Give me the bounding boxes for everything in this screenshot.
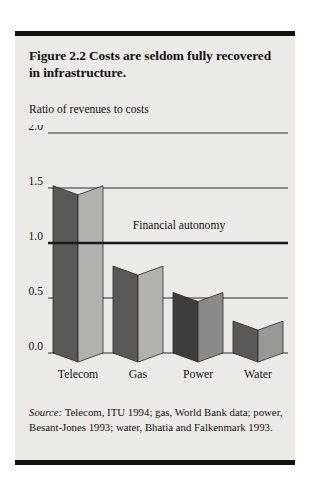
y-tick-label: 2.0 xyxy=(29,125,44,133)
bar-face-left xyxy=(113,266,138,362)
bar-face-left xyxy=(53,186,78,362)
x-axis-label: Water xyxy=(244,367,272,382)
bar-water xyxy=(233,321,283,362)
x-axis-label: Telecom xyxy=(58,367,98,382)
bar-face-right xyxy=(258,321,283,362)
y-tick-label: 1.0 xyxy=(29,230,44,243)
y-tick-label: 0.5 xyxy=(29,285,44,298)
source-note: Source: Telecom, ITU 1994; gas, World Ba… xyxy=(29,405,283,435)
bar-gas xyxy=(113,266,163,362)
bar-power xyxy=(173,293,223,363)
y-tick-label: 0.0 xyxy=(29,340,44,353)
bar-face-left xyxy=(233,321,258,362)
figure-title: Figure 2.2 Costs are seldom fully recove… xyxy=(29,47,285,82)
bar-chart: 0.00.51.01.52.0 Financial autonomy xyxy=(15,125,295,365)
panel-bottom-rule xyxy=(15,460,295,465)
panel-top-rule xyxy=(15,31,295,36)
bar-face-right xyxy=(138,266,163,362)
y-axis-caption: Ratio of revenues to costs xyxy=(29,103,149,116)
annotation-financial-autonomy: Financial autonomy xyxy=(133,219,226,232)
bar-face-left xyxy=(173,293,198,363)
bar-group xyxy=(53,186,283,362)
source-text: Telecom, ITU 1994; gas, World Bank data;… xyxy=(29,406,283,433)
source-label: Source: xyxy=(29,406,62,418)
x-axis-label: Power xyxy=(183,367,213,382)
bar-face-right xyxy=(198,293,223,363)
figure-panel: Figure 2.2 Costs are seldom fully recove… xyxy=(15,31,295,465)
x-axis-label-group: TelecomGasPowerWater xyxy=(15,367,295,389)
y-tick-label-group: 0.00.51.01.52.0 xyxy=(29,125,44,353)
bar-face-right xyxy=(78,186,103,362)
y-tick-label: 1.5 xyxy=(29,175,44,188)
x-axis-label: Gas xyxy=(129,367,147,382)
bar-telecom xyxy=(53,186,103,362)
